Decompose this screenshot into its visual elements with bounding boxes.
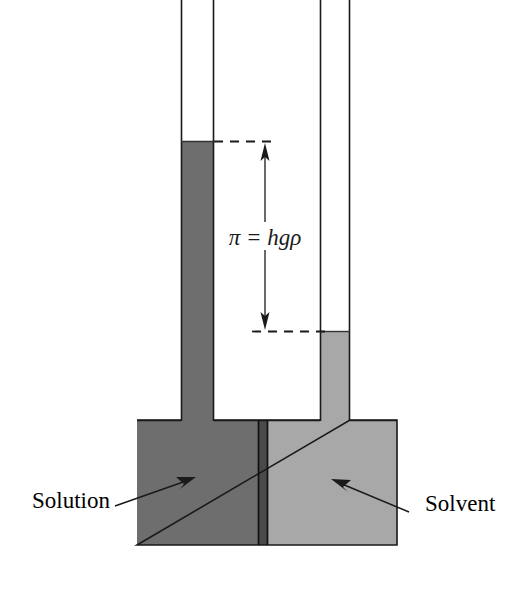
osmometer-diagram: π = hgρ Solution Solvent bbox=[0, 0, 519, 600]
solution-label: Solution bbox=[32, 488, 110, 513]
osmotic-pressure-figure: π = hgρ Solution Solvent bbox=[0, 0, 519, 600]
semipermeable-membrane bbox=[258, 420, 268, 545]
solvent-tube-liquid bbox=[321, 331, 349, 421]
solvent-label: Solvent bbox=[425, 491, 496, 516]
solution-tube-liquid bbox=[182, 141, 213, 421]
solution-reservoir-liquid bbox=[137, 420, 258, 545]
solvent-reservoir-liquid bbox=[268, 420, 397, 545]
osmotic-pressure-formula: π = hgρ bbox=[229, 225, 302, 250]
